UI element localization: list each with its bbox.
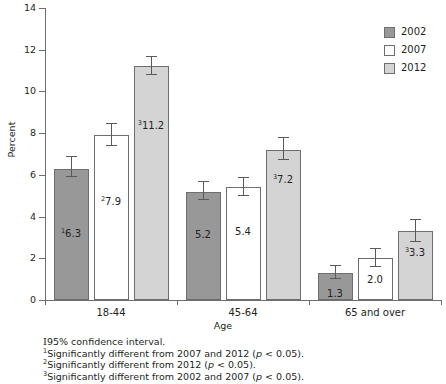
footnote-2: 2Significantly different from 2012 (p < … xyxy=(43,359,443,371)
error-bar xyxy=(266,137,301,160)
error-bar-cap-bottom xyxy=(106,145,117,146)
y-axis-tick-label: 0 xyxy=(6,295,36,305)
error-bar xyxy=(186,181,221,200)
confidence-interval-icon: I xyxy=(43,336,47,347)
y-axis-tick-label-wrap: 14 xyxy=(0,8,36,9)
error-bar-cap-top xyxy=(106,123,117,124)
error-bar-cap-top xyxy=(410,219,421,220)
y-axis-tick-label: 4 xyxy=(6,212,36,222)
footnote-p-symbol: p xyxy=(256,348,262,359)
error-bar-cap-bottom xyxy=(370,266,381,267)
error-bar-stem xyxy=(151,56,152,75)
error-bar-cap-bottom xyxy=(146,74,157,75)
bar-value-label: 16.3 xyxy=(48,229,94,239)
footnotes: I95% confidence interval.1Significantly … xyxy=(43,336,443,383)
y-axis-tick-label-wrap: 12 xyxy=(0,50,36,51)
error-bar-cap-bottom xyxy=(278,159,289,160)
error-bar-cap-bottom xyxy=(410,241,421,242)
footnote-marker: 3 xyxy=(43,370,47,378)
plot-area: 16.327.9311.25.25.437.21.32.033.3 xyxy=(45,8,441,300)
error-bar-cap-bottom xyxy=(238,195,249,196)
x-axis-title: Age xyxy=(0,320,446,331)
footnote-p-symbol: p xyxy=(208,359,214,370)
bar-chart: 02468101214 Percent 16.327.9311.25.25.43… xyxy=(0,0,446,384)
bar-value-label: 2.0 xyxy=(352,275,398,285)
bar-2012-45-64 xyxy=(266,150,301,300)
error-bar xyxy=(54,156,89,177)
footnote-1: 1Significantly different from 2007 and 2… xyxy=(43,348,443,360)
bar-value-label: 27.9 xyxy=(88,197,134,207)
legend-item-label: 2007 xyxy=(401,45,426,55)
error-bar xyxy=(358,248,393,267)
x-axis-tick xyxy=(45,300,46,305)
error-bar-stem xyxy=(203,181,204,200)
error-bar-cap-bottom xyxy=(66,176,77,177)
legend-swatch-icon xyxy=(384,27,395,38)
error-bar-cap-top xyxy=(198,181,209,182)
footnote-marker: 1 xyxy=(43,347,47,355)
y-axis-tick-label: 12 xyxy=(6,45,36,55)
footnote-3: 3Significantly different from 2002 and 2… xyxy=(43,371,443,383)
error-bar-stem xyxy=(283,137,284,160)
error-bar-cap-top xyxy=(278,137,289,138)
error-bar-stem xyxy=(243,177,244,196)
error-bar-stem xyxy=(111,123,112,146)
error-bar-stem xyxy=(415,219,416,242)
error-bar-stem xyxy=(375,248,376,267)
error-bar-cap-bottom xyxy=(330,278,341,279)
legend-swatch-icon xyxy=(384,63,395,74)
error-bar-cap-bottom xyxy=(198,199,209,200)
error-bar-cap-top xyxy=(330,265,341,266)
legend: 200220072012 xyxy=(384,24,426,78)
y-axis-title: Percent xyxy=(6,110,17,170)
y-axis-tick-label: 6 xyxy=(6,170,36,180)
error-bar-cap-top xyxy=(370,248,381,249)
x-axis-tick xyxy=(309,300,310,305)
footnote-marker: 2 xyxy=(43,358,47,366)
x-axis-group-label-65-and-over: 65 and over xyxy=(315,307,435,318)
error-bar xyxy=(134,56,169,75)
x-axis-group-label-18-44: 18-44 xyxy=(51,307,171,318)
footnote-0: I95% confidence interval. xyxy=(43,336,443,348)
legend-item-label: 2002 xyxy=(401,27,426,37)
bar-2012-18-44 xyxy=(134,66,169,300)
y-axis-tick-label-wrap: 10 xyxy=(0,91,36,92)
y-axis-tick-label-wrap: 4 xyxy=(0,217,36,218)
y-axis-tick-label: 10 xyxy=(6,86,36,96)
error-bar xyxy=(398,219,433,242)
y-axis-tick-label: 2 xyxy=(6,253,36,263)
y-axis-tick-label-wrap: 2 xyxy=(0,258,36,259)
error-bar-stem xyxy=(335,265,336,280)
error-bar-stem xyxy=(71,156,72,177)
footnote-p-symbol: p xyxy=(256,371,262,382)
x-axis-tick xyxy=(177,300,178,305)
x-axis-tick xyxy=(441,300,442,305)
x-axis-group-label-45-64: 45-64 xyxy=(183,307,303,318)
legend-item-label: 2012 xyxy=(401,63,426,73)
bar-value-label: 37.2 xyxy=(260,175,306,185)
y-axis-tick-label: 14 xyxy=(6,3,36,13)
x-axis-line xyxy=(45,300,441,301)
bar-value-label: 311.2 xyxy=(128,121,174,131)
error-bar-cap-top xyxy=(146,56,157,57)
bar-value-label: 5.4 xyxy=(220,227,266,237)
error-bar xyxy=(94,123,129,146)
error-bar-cap-top xyxy=(238,177,249,178)
legend-item-2007[interactable]: 2007 xyxy=(384,42,426,58)
bar-2007-45-64 xyxy=(226,187,261,300)
bar-value-label: 33.3 xyxy=(392,248,438,258)
y-axis-tick-label-wrap: 0 xyxy=(0,300,36,301)
legend-swatch-icon xyxy=(384,45,395,56)
error-bar xyxy=(226,177,261,196)
error-bar xyxy=(318,265,353,280)
error-bar-cap-top xyxy=(66,156,77,157)
y-axis-tick-label-wrap: 6 xyxy=(0,175,36,176)
bar-value-label: 1.3 xyxy=(312,289,358,299)
bar-2007-18-44 xyxy=(94,135,129,300)
legend-item-2002[interactable]: 2002 xyxy=(384,24,426,40)
legend-item-2012[interactable]: 2012 xyxy=(384,60,426,76)
bar-2002-45-64 xyxy=(186,192,221,300)
